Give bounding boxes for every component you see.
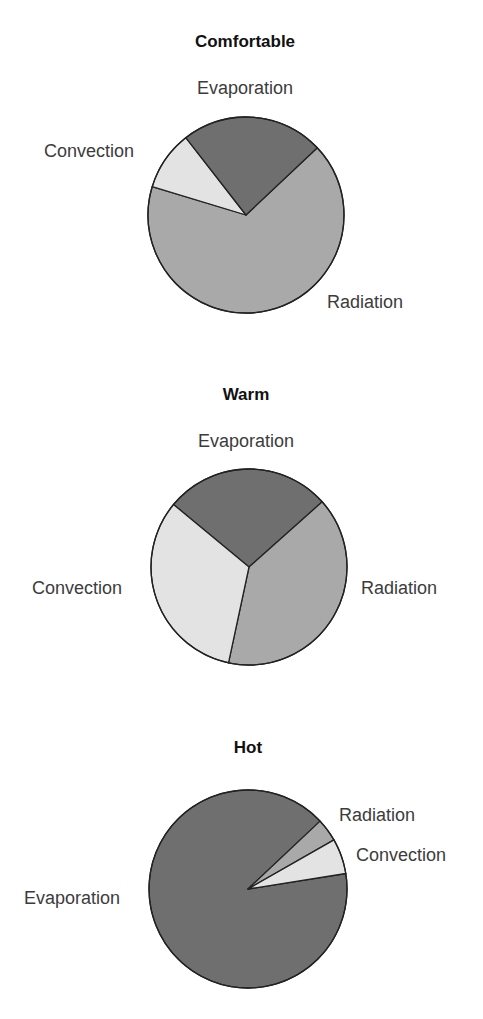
label-convection-warm: Convection xyxy=(32,578,122,598)
pie-chart-hot: Hot Radiation Convection Evaporation xyxy=(24,738,446,988)
chart-title-comfortable: Comfortable xyxy=(195,32,295,51)
charts-canvas: Comfortable Evaporation Convection Radia… xyxy=(0,0,483,1019)
label-radiation-comfortable: Radiation xyxy=(327,292,403,312)
chart-title-warm: Warm xyxy=(223,385,270,404)
label-evaporation-comfortable: Evaporation xyxy=(197,78,293,98)
label-convection-hot: Convection xyxy=(356,845,446,865)
pie-chart-comfortable: Comfortable Evaporation Convection Radia… xyxy=(44,32,403,313)
label-radiation-hot: Radiation xyxy=(339,805,415,825)
label-radiation-warm: Radiation xyxy=(361,578,437,598)
chart-title-hot: Hot xyxy=(234,738,263,757)
label-convection-comfortable: Convection xyxy=(44,141,134,161)
label-evaporation-hot: Evaporation xyxy=(24,888,120,908)
label-evaporation-warm: Evaporation xyxy=(198,431,294,451)
pie-chart-warm: Warm Evaporation Convection Radiation xyxy=(32,385,437,665)
